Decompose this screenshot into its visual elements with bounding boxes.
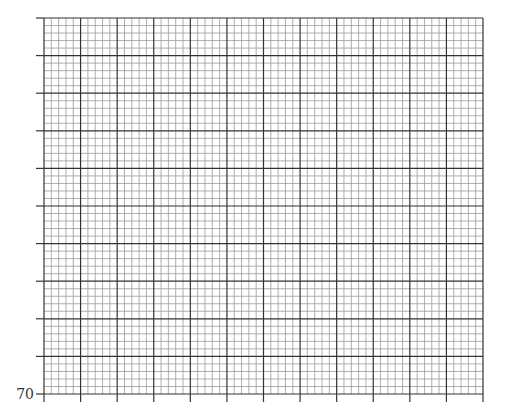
graph-paper-chart: 70 xyxy=(0,0,510,418)
axis-ticks xyxy=(36,18,483,402)
y-tick-label-70: 70 xyxy=(16,386,34,402)
